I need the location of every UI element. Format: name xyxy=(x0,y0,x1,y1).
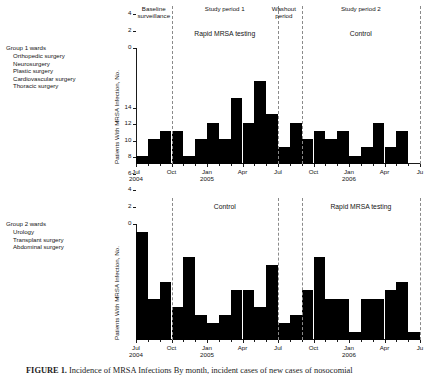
x-axis-minor-tick xyxy=(266,340,267,342)
y-axis-tick-mark xyxy=(133,14,136,15)
x-axis-minor-tick xyxy=(396,164,397,166)
x-axis-minor-tick xyxy=(231,164,232,166)
y-axis-tick-label: 14 xyxy=(125,104,132,110)
chart-bar xyxy=(361,147,373,164)
x-axis-minor-tick xyxy=(290,164,291,166)
treatment-arm-label: Control xyxy=(350,30,372,38)
phase-label-line: Study period 2 xyxy=(341,5,381,12)
ward-legend-item: Cardiovascular surgery xyxy=(13,75,76,83)
chart-bar xyxy=(314,131,326,164)
y-axis-tick-mark xyxy=(133,190,136,191)
chart-bar xyxy=(243,290,255,340)
x-axis-tick-label: Apr xyxy=(380,168,390,175)
y-axis-line xyxy=(136,48,137,164)
x-axis-tick-month: Oct xyxy=(309,168,319,175)
figure-caption: FIGURE 1. Incidence of MRSA Infections B… xyxy=(26,366,426,375)
chart-bar xyxy=(207,323,219,340)
x-axis-tick-label: Jan2006 xyxy=(342,168,356,182)
x-axis-tick-year: 2005 xyxy=(200,175,214,182)
y-axis-tick-label: 10 xyxy=(125,137,132,143)
x-axis-minor-tick xyxy=(254,340,255,342)
x-axis-tick-label: Jul xyxy=(274,344,282,351)
figure-caption-text: Incidence of MRSA Infections By month, i… xyxy=(67,366,353,375)
y-axis-title: Patients With MRSA Infection, No. xyxy=(114,246,120,340)
y-axis-tick-mark xyxy=(133,108,136,109)
chart-bar xyxy=(290,123,302,164)
x-axis-tick-month: Jan xyxy=(202,344,212,351)
ward-legend-group-1: Group 1 wards Orthopedic surgery Neurosu… xyxy=(6,44,76,90)
phase-divider xyxy=(172,6,173,164)
x-axis-tick-label: Oct xyxy=(309,344,319,351)
x-axis-tick-label: Oct xyxy=(167,344,177,351)
x-axis-minor-tick xyxy=(373,340,374,342)
chart-bar xyxy=(302,290,314,340)
phase-label: Study period 1 xyxy=(205,5,245,12)
x-axis-tick-month: Jul xyxy=(274,168,282,175)
chart-bar xyxy=(278,323,290,340)
x-axis-tick-month: Oct xyxy=(167,344,177,351)
x-axis-minor-tick xyxy=(337,340,338,342)
x-axis-minor-tick xyxy=(231,340,232,342)
x-axis-tick-month: Jul xyxy=(274,344,282,351)
y-axis-tick-label: 4 xyxy=(128,10,131,16)
chart-bar xyxy=(396,282,408,340)
phase-divider xyxy=(278,198,279,340)
y-axis-tick-label: 0 xyxy=(128,44,131,50)
ward-legend-item: Neurosurgery xyxy=(13,60,76,68)
y-axis-tick-label: 12 xyxy=(125,120,132,126)
y-axis-tick-label: 0 xyxy=(128,220,131,226)
x-axis-tick-label: Apr xyxy=(380,344,390,351)
y-axis-tick-mark xyxy=(133,141,136,142)
x-axis-tick-label: Apr xyxy=(238,168,248,175)
chart-bar xyxy=(148,299,160,340)
x-axis-tick-label: Jul xyxy=(274,168,282,175)
y-axis-tick-mark xyxy=(133,157,136,158)
x-axis-tick-month: Apr xyxy=(238,344,248,351)
y-axis-tick-label: 6 xyxy=(128,170,131,176)
chart-bar xyxy=(160,282,172,340)
x-axis-minor-tick xyxy=(254,164,255,166)
y-axis-tick-label: 2 xyxy=(128,27,131,33)
chart-bar xyxy=(195,315,207,340)
phase-label: Washoutperiod xyxy=(272,5,296,20)
x-axis-minor-tick xyxy=(337,164,338,166)
chart-bar xyxy=(231,98,243,164)
chart-bar xyxy=(349,156,361,164)
x-axis-tick-month: Ju xyxy=(417,344,424,351)
treatment-arm-label: Rapid MRSA testing xyxy=(194,30,255,38)
chart-bar xyxy=(183,257,195,340)
ward-legend-title: Group 1 wards xyxy=(6,44,76,52)
chart-bar xyxy=(231,290,243,340)
x-axis-minor-tick xyxy=(195,340,196,342)
phase-label-line: Washout xyxy=(272,5,296,12)
x-axis-tick-year: 2006 xyxy=(342,175,356,182)
y-axis-tick-mark xyxy=(133,207,136,208)
chart-bar xyxy=(373,123,385,164)
y-axis-tick-mark xyxy=(133,48,136,49)
x-axis-tick-month: Jul xyxy=(132,344,140,351)
chart-plot-area-group-2: 02468101214Patients With MRSA Infection,… xyxy=(136,224,420,340)
phase-divider xyxy=(420,6,421,164)
x-axis-minor-tick xyxy=(396,340,397,342)
chart-bar xyxy=(314,257,326,340)
chart-bar xyxy=(361,299,373,340)
x-axis-tick-month: Apr xyxy=(380,344,390,351)
phase-divider xyxy=(172,198,173,340)
y-axis-tick-label: 2 xyxy=(128,203,131,209)
chart-bar xyxy=(254,307,266,340)
chart-plot-area-group-1: 02468101214Patients With MRSA Infection,… xyxy=(136,48,420,164)
y-axis-tick-mark xyxy=(133,174,136,175)
x-axis-tick-label: Oct xyxy=(309,168,319,175)
x-axis-minor-tick xyxy=(160,164,161,166)
x-axis-minor-tick xyxy=(148,164,149,166)
x-axis-minor-tick xyxy=(325,164,326,166)
x-axis-tick-label: Apr xyxy=(238,344,248,351)
x-axis-minor-tick xyxy=(160,340,161,342)
y-axis-tick-label: 8 xyxy=(128,153,131,159)
treatment-arm-label: Control xyxy=(214,203,236,211)
phase-label-line: surveillance xyxy=(137,12,170,19)
x-axis-tick-month: Apr xyxy=(380,168,390,175)
x-axis-minor-tick xyxy=(195,164,196,166)
x-axis-tick-label: Jan2006 xyxy=(342,344,356,358)
phase-label-line: period xyxy=(272,12,296,19)
